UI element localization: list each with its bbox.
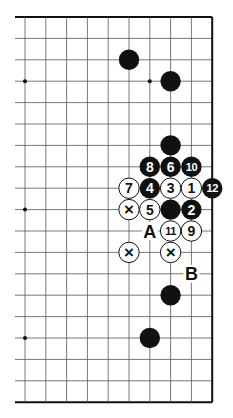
move-number: 9 bbox=[188, 223, 196, 239]
white-stone: 3 bbox=[160, 178, 180, 198]
black-stone bbox=[160, 285, 180, 305]
white-stone: × bbox=[119, 242, 139, 262]
black-stone-disc bbox=[160, 71, 180, 91]
cross-mark-icon: × bbox=[124, 243, 134, 262]
move-number: 2 bbox=[188, 202, 196, 218]
black-stone: 8 bbox=[140, 157, 160, 177]
point-label-text: B bbox=[185, 264, 198, 284]
white-stone: 7 bbox=[119, 178, 139, 198]
black-stone: 6 bbox=[160, 157, 180, 177]
white-stone: 1 bbox=[181, 178, 201, 198]
black-stone bbox=[160, 199, 180, 219]
move-number: 4 bbox=[146, 180, 154, 196]
move-number: 7 bbox=[125, 180, 133, 196]
black-stone: 4 bbox=[140, 178, 160, 198]
move-number: 3 bbox=[167, 180, 175, 196]
move-number: 6 bbox=[167, 159, 175, 175]
black-stone-disc bbox=[160, 285, 180, 305]
star-point bbox=[23, 336, 27, 340]
go-board-diagram: 8610743112×52119×× AB bbox=[0, 0, 233, 418]
black-stone: 10 bbox=[181, 157, 201, 177]
move-number: 8 bbox=[146, 159, 154, 175]
cross-mark-icon: × bbox=[124, 200, 134, 219]
black-stone: 2 bbox=[181, 199, 201, 219]
cross-mark-icon: × bbox=[166, 243, 176, 262]
star-point bbox=[23, 79, 27, 83]
point-label-a: A bbox=[142, 222, 158, 242]
black-stone bbox=[160, 135, 180, 155]
black-stone-disc bbox=[160, 135, 180, 155]
move-number: 10 bbox=[186, 161, 198, 173]
point-label-text: A bbox=[143, 222, 156, 242]
white-stone: × bbox=[119, 199, 139, 219]
star-point bbox=[148, 79, 152, 83]
move-number: 5 bbox=[146, 202, 154, 218]
black-stone-disc bbox=[160, 199, 180, 219]
move-number: 11 bbox=[165, 225, 176, 237]
move-number: 12 bbox=[207, 182, 219, 194]
black-stone bbox=[160, 71, 180, 91]
white-stone: 9 bbox=[181, 221, 201, 241]
white-stone: 11 bbox=[160, 221, 180, 241]
point-label-b: B bbox=[183, 264, 199, 284]
black-stone bbox=[119, 50, 139, 70]
black-stone-disc bbox=[119, 50, 139, 70]
white-stone: 5 bbox=[140, 199, 160, 219]
star-point bbox=[23, 208, 27, 212]
black-stone-disc bbox=[140, 328, 160, 348]
white-stone: × bbox=[160, 242, 180, 262]
black-stone bbox=[140, 328, 160, 348]
move-number: 1 bbox=[188, 180, 196, 196]
black-stone: 12 bbox=[202, 178, 222, 198]
